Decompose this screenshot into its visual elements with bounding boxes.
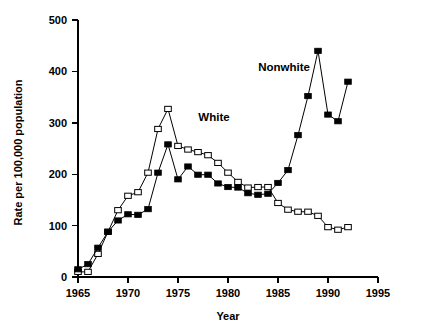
data-point-marker-filled	[125, 212, 132, 217]
y-axis-title: Rate per 100,000 population	[12, 79, 24, 225]
series-polyline	[78, 51, 348, 269]
data-point-marker-open	[175, 143, 182, 148]
data-point-marker-open	[135, 190, 142, 195]
data-point-marker-open	[265, 184, 272, 189]
series-white	[75, 106, 352, 274]
data-point-marker-open	[165, 106, 172, 111]
data-point-marker-open	[205, 153, 212, 158]
x-axis-tick-label: 1970	[116, 287, 140, 299]
data-point-marker-filled	[135, 212, 142, 217]
y-axis-tick-label: 400	[49, 65, 67, 77]
data-point-marker-filled	[155, 170, 162, 175]
data-point-marker-open	[335, 227, 342, 232]
data-point-marker-filled	[225, 184, 232, 189]
data-point-marker-filled	[325, 112, 332, 117]
series-annotation-white: White	[198, 111, 229, 123]
data-point-marker-filled	[315, 48, 322, 53]
data-point-marker-open	[295, 209, 302, 214]
data-point-marker-filled	[275, 180, 282, 185]
data-point-marker-filled	[95, 245, 102, 250]
data-point-marker-filled	[215, 181, 222, 186]
data-point-marker-filled	[335, 119, 342, 124]
data-point-marker-filled	[75, 267, 82, 272]
data-point-marker-filled	[175, 177, 182, 182]
line-chart-canvas: 0100200300400500196519701975198019851990…	[0, 0, 438, 322]
series-polyline	[78, 109, 348, 272]
data-point-marker-open	[345, 225, 352, 230]
data-point-marker-filled	[295, 133, 302, 138]
data-point-marker-open	[115, 208, 122, 213]
series-annotation-nonwhite: Nonwhite	[258, 61, 310, 73]
x-axis-tick-label: 1980	[216, 287, 240, 299]
y-axis-tick-label: 100	[49, 220, 67, 232]
data-point-marker-filled	[285, 167, 292, 172]
y-axis-tick-label: 500	[49, 14, 67, 26]
x-axis-tick-label: 1965	[66, 287, 90, 299]
data-point-marker-filled	[235, 185, 242, 190]
data-point-marker-open	[285, 207, 292, 212]
y-axis-tick-label: 200	[49, 168, 67, 180]
x-axis-tick-label: 1975	[166, 287, 190, 299]
data-point-marker-open	[145, 170, 152, 175]
data-point-marker-open	[255, 184, 262, 189]
y-axis-tick-label: 300	[49, 117, 67, 129]
data-point-marker-open	[245, 185, 252, 190]
data-point-marker-filled	[345, 79, 352, 84]
data-point-marker-open	[275, 200, 282, 205]
data-point-marker-open	[225, 170, 232, 175]
data-point-marker-open	[325, 225, 332, 230]
data-point-marker-open	[155, 126, 162, 131]
data-point-marker-filled	[85, 262, 92, 267]
data-point-marker-open	[125, 193, 132, 198]
data-point-marker-open	[185, 147, 192, 152]
x-axis-tick-label: 1995	[366, 287, 390, 299]
data-point-marker-open	[85, 269, 92, 274]
data-point-marker-filled	[105, 229, 112, 234]
data-point-marker-open	[215, 160, 222, 165]
data-point-marker-filled	[205, 172, 212, 177]
data-point-marker-open	[195, 150, 202, 155]
chart-figure: 0100200300400500196519701975198019851990…	[0, 0, 438, 322]
x-axis-title: Year	[216, 310, 240, 322]
y-axis-tick-label: 0	[61, 271, 67, 283]
data-point-marker-filled	[265, 191, 272, 196]
x-axis-tick-label: 1990	[316, 287, 340, 299]
x-axis-tick-label: 1985	[266, 287, 290, 299]
data-point-marker-filled	[115, 218, 122, 223]
data-point-marker-filled	[245, 191, 252, 196]
data-point-marker-filled	[185, 164, 192, 169]
data-point-marker-filled	[145, 207, 152, 212]
data-point-marker-open	[305, 209, 312, 214]
series-nonwhite	[75, 48, 352, 272]
data-point-marker-open	[235, 179, 242, 184]
data-point-marker-filled	[165, 142, 172, 147]
data-point-marker-filled	[305, 93, 312, 98]
data-point-marker-filled	[195, 172, 202, 177]
data-point-marker-open	[315, 213, 322, 218]
data-point-marker-filled	[255, 192, 262, 197]
